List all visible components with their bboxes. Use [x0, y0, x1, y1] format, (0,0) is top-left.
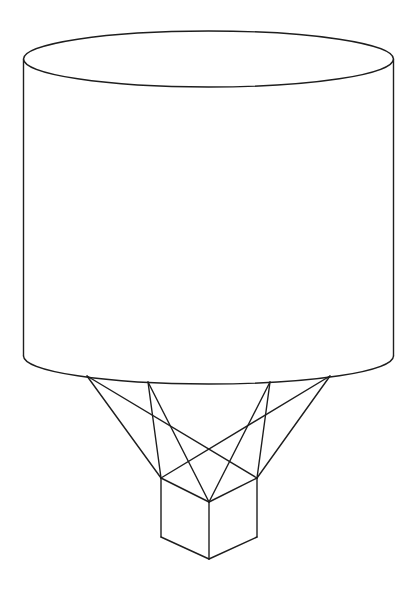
cylinder-top-ellipse — [24, 31, 394, 87]
cable-line — [209, 382, 270, 502]
cube-bottom-right-edge — [209, 537, 257, 559]
cable-line — [148, 382, 209, 502]
cube-bottom-left-edge — [161, 537, 209, 559]
cylinder-cube-line-drawing — [0, 0, 415, 596]
cable-line — [161, 376, 330, 478]
cylinder — [24, 31, 394, 384]
diagram-canvas — [0, 0, 415, 596]
cube-top-right-edge — [209, 478, 257, 502]
cube — [161, 478, 257, 559]
cable-line — [87, 376, 257, 478]
cable-line — [257, 376, 330, 478]
cylinder-bottom-arc — [24, 356, 394, 384]
suspension-cables — [87, 376, 330, 502]
cube-top-left-edge — [161, 478, 209, 502]
